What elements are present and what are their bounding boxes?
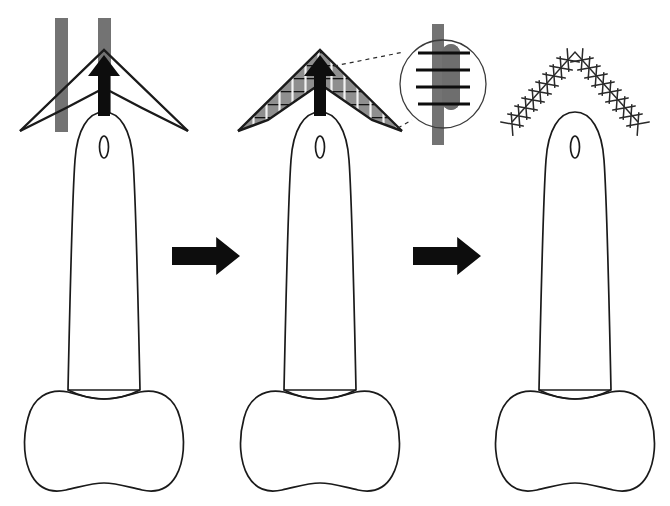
base-outline: [25, 391, 184, 491]
tip-aperture-oval: [316, 136, 325, 158]
tissue-band-left: [55, 18, 68, 132]
base-outline: [241, 391, 400, 491]
procedure-diagram: [0, 0, 670, 506]
figure-canvas: [0, 0, 670, 506]
base-outline: [496, 391, 655, 491]
tip-aperture-oval: [571, 136, 580, 158]
tip-aperture-oval: [100, 136, 109, 158]
